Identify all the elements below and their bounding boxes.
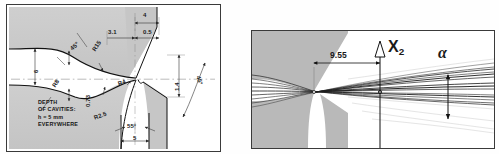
label-dim-0-5: 0.5 <box>143 29 152 35</box>
note-line-4: EVERYWHERE <box>38 121 78 128</box>
flow-streamline-photo-panel: 9.55 X2 α <box>251 30 495 149</box>
depth-of-cavities-note: DEPTH OF CAVITIES: h = 5 mm EVERYWHERE <box>38 99 78 128</box>
label-distance-9-55: 9.55 <box>330 51 347 60</box>
axis-x2-subscript: 2 <box>399 46 405 57</box>
label-angle-55: 55° <box>127 123 136 129</box>
label-dim-5: 5 <box>133 135 136 141</box>
die-cavity-cross-section-panel: 45° R15 3.1 4 0.5 6 R8 0.73 R2.5 R4 1.4 … <box>6 4 221 152</box>
left-panel-drawing <box>7 5 220 151</box>
note-line-3: h = 5 mm <box>38 114 78 121</box>
label-dim-3-1: 3.1 <box>108 29 117 35</box>
label-dim-4: 4 <box>143 12 146 18</box>
axis-x2-base: X <box>388 38 399 55</box>
note-line-2: OF CAVITIES: <box>38 106 78 113</box>
label-dim-1-4: 1.4 <box>174 82 180 91</box>
label-angle-alpha: α <box>438 45 447 61</box>
label-axis-x2: X2 <box>388 39 404 57</box>
right-panel-drawing <box>252 31 494 148</box>
figure-root: 45° R15 3.1 4 0.5 6 R8 0.73 R2.5 R4 1.4 … <box>0 0 499 154</box>
note-line-1: DEPTH <box>38 99 78 106</box>
label-dim-0-73: 0.73 <box>85 95 91 107</box>
label-dim-6: 6 <box>33 70 39 73</box>
